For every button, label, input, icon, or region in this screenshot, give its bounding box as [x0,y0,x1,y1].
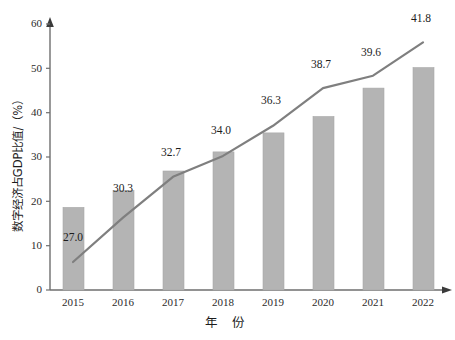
y-axis [46,17,54,290]
data-label-2019: 36.3 [251,94,291,106]
data-label-2018: 34.0 [201,124,241,136]
y-tick-label-60: 60 [18,17,42,29]
x-axis [50,286,452,293]
data-label-2020: 38.7 [301,58,341,70]
y-tick-label-0: 0 [18,283,42,295]
chart-container: 0 10 20 30 40 50 60 2015 2016 2017 2018 … [0,0,455,340]
x-tick-label-2018: 2018 [201,296,245,308]
x-tick-label-2015: 2015 [51,296,95,308]
bar-2021 [363,88,384,290]
bar-2016 [113,191,134,290]
data-label-2016: 30.3 [103,182,143,194]
bar-2015 [63,207,84,290]
x-tick-label-2016: 2016 [101,296,145,308]
x-axis-title: 年 份 [0,312,455,331]
y-axis-title: 数字经济占GDP比值/（%） [9,58,25,268]
x-tick-label-2021: 2021 [351,296,395,308]
x-tick-label-2017: 2017 [151,296,195,308]
x-tick-label-2019: 2019 [251,296,295,308]
bar-2018 [213,152,234,290]
x-tick-label-2020: 2020 [301,296,345,308]
bar-2019 [263,133,284,290]
data-label-2022: 41.8 [401,12,441,24]
data-label-2017: 32.7 [151,146,191,158]
data-label-2015: 27.0 [53,231,93,243]
bar-series [63,68,434,290]
bar-2017 [163,171,184,290]
bar-2020 [313,117,334,291]
x-tick-label-2022: 2022 [401,296,445,308]
bar-2022 [413,68,434,290]
data-label-2021: 39.6 [351,46,391,58]
